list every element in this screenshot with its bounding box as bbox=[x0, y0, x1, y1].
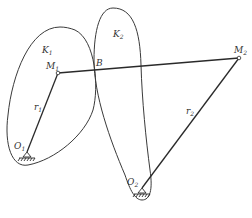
label-o1: O1 bbox=[14, 141, 25, 152]
crank-r1 bbox=[27, 73, 58, 152]
label-r2: r2 bbox=[186, 106, 194, 117]
mechanism-diagram: K1 K2 M1 B M2 r1 r2 O1 O2 bbox=[0, 0, 252, 218]
label-b: B bbox=[95, 58, 103, 68]
label-k1: K1 bbox=[41, 45, 53, 56]
ground-support-o2-icon bbox=[133, 188, 150, 197]
crank-r2 bbox=[142, 58, 239, 188]
coupler-link bbox=[58, 58, 239, 73]
label-m2: M2 bbox=[233, 45, 247, 56]
label-m1: M1 bbox=[45, 61, 59, 72]
label-o2: O2 bbox=[127, 177, 138, 188]
label-k2: K2 bbox=[112, 29, 124, 40]
joint-m2-icon bbox=[237, 56, 241, 60]
ground-support-o1-icon bbox=[18, 152, 35, 161]
label-r1: r1 bbox=[34, 102, 42, 113]
